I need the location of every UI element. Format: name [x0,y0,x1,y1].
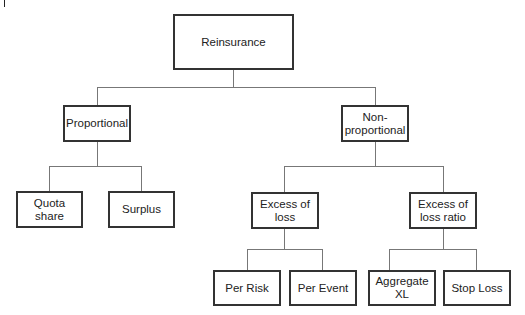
connector [284,229,285,249]
node-quota-share: Quota share [16,191,83,228]
node-label: Proportional [66,117,128,130]
node-excess-of-loss: Excess of loss [251,192,319,229]
node-label: Surplus [122,203,161,216]
node-label: Non- proportional [345,111,406,137]
connector [49,166,142,167]
connector [375,87,376,105]
connector [97,87,98,105]
node-reinsurance: Reinsurance [173,14,294,70]
node-proportional: Proportional [63,105,131,142]
connector [389,249,390,270]
connector [284,166,444,167]
connector [49,166,50,191]
node-label: Excess of loss [260,198,310,224]
node-per-event: Per Event [289,270,357,306]
node-surplus: Surplus [108,191,175,228]
connector [389,249,477,250]
corner-mark [4,0,5,7]
connector [97,142,98,166]
connector [233,70,234,87]
node-excess-of-loss-ratio: Excess of loss ratio [409,192,477,229]
node-label: Per Risk [225,282,268,295]
connector [443,229,444,249]
connector [443,166,444,192]
connector [284,166,285,192]
connector [322,249,323,270]
connector [97,87,376,88]
connector [375,142,376,166]
node-aggregate-xl: Aggregate XL [368,270,436,306]
node-label: Stop Loss [451,282,502,295]
node-label: Reinsurance [201,36,266,49]
connector [141,166,142,191]
node-non-proportional: Non- proportional [341,105,409,142]
connector [476,249,477,270]
node-label: Quota share [20,197,79,223]
connector [247,249,323,250]
node-per-risk: Per Risk [213,270,281,306]
node-label: Excess of loss ratio [418,198,468,224]
node-stop-loss: Stop Loss [443,270,511,306]
node-label: Per Event [298,282,349,295]
connector [247,249,248,270]
node-label: Aggregate XL [372,275,432,301]
